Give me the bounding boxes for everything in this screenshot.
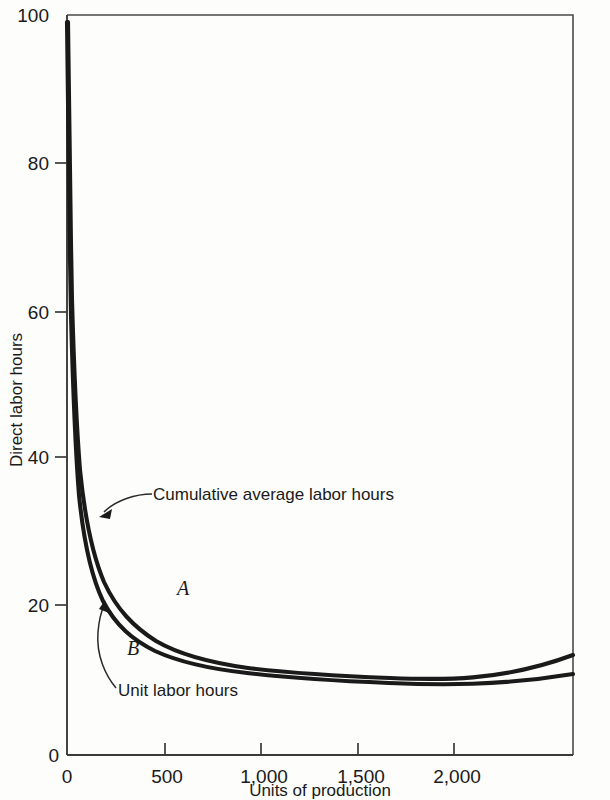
- series-line-cumulative-average: [68, 22, 573, 679]
- y-tick-label-20: 20: [28, 595, 49, 616]
- annotation-leader-cumulative: [104, 494, 152, 512]
- learning-curve-chart: 100 80 60 40 20 0 0 500 1,000 1,500 2,00…: [0, 0, 610, 800]
- x-axis-ticks: [165, 743, 454, 755]
- x-axis-title: Units of production: [249, 781, 391, 800]
- chart-canvas: 100 80 60 40 20 0 0 500 1,000 1,500 2,00…: [0, 0, 610, 800]
- y-axis-title: Direct labor hours: [7, 333, 26, 467]
- x-tick-label-2000: 2,000: [433, 766, 481, 787]
- y-tick-label-100: 100: [17, 5, 49, 26]
- series-line-unit-labor: [67, 22, 573, 684]
- annotation-text-unit: Unit labor hours: [118, 681, 238, 700]
- y-tick-label-0: 0: [48, 745, 59, 766]
- y-tick-label-60: 60: [28, 302, 49, 323]
- x-tick-label-500: 500: [151, 766, 183, 787]
- y-tick-label-40: 40: [28, 447, 49, 468]
- curve-label-a: A: [175, 577, 190, 599]
- y-tick-label-80: 80: [28, 153, 49, 174]
- y-axis-ticks: [55, 163, 67, 605]
- curve-label-b: B: [127, 637, 139, 659]
- annotation-text-cumulative: Cumulative average labor hours: [153, 485, 394, 504]
- x-tick-label-0: 0: [62, 766, 73, 787]
